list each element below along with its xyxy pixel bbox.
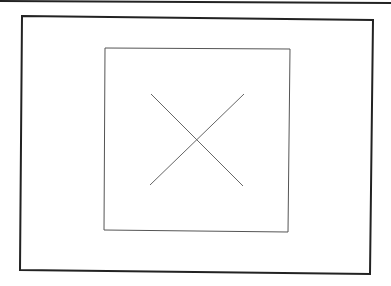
diagram-canvas bbox=[0, 0, 391, 286]
background bbox=[0, 0, 391, 286]
